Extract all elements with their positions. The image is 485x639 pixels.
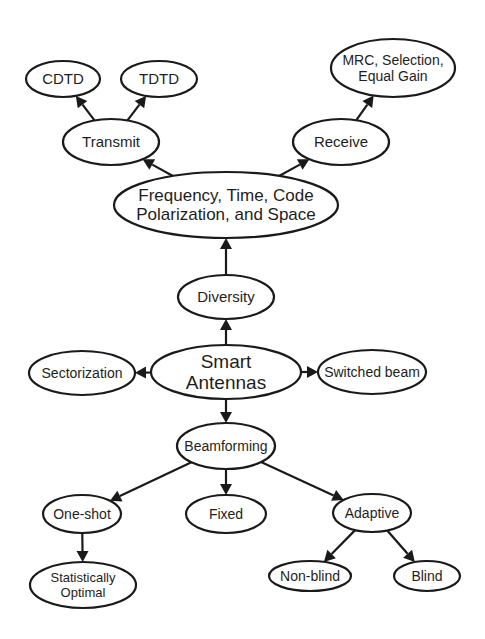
- node-mrc: MRC, Selection,Equal Gain: [331, 39, 455, 97]
- arrowhead-icon: [362, 96, 373, 108]
- node-label: Non-blind: [280, 568, 340, 584]
- node-label: MRC, Selection,: [342, 52, 443, 68]
- nodes-layer: CDTDTDTDTransmitMRC, Selection,Equal Gai…: [26, 39, 460, 608]
- smart-antennas-diagram: CDTDTDTDTransmitMRC, Selection,Equal Gai…: [0, 0, 485, 639]
- node-label: Antennas: [186, 372, 266, 393]
- node-label: Equal Gain: [358, 68, 427, 84]
- node-label: Switched beam: [324, 364, 420, 380]
- node-label: Beamforming: [184, 438, 267, 454]
- arrowhead-icon: [220, 412, 232, 423]
- edge-line: [279, 165, 300, 176]
- edge-line: [83, 105, 95, 121]
- edge-line: [261, 462, 334, 495]
- arrowhead-icon: [307, 366, 318, 378]
- edge-smart-to-beamforming: [220, 399, 232, 423]
- node-smart: SmartAntennas: [151, 345, 301, 399]
- edge-beamforming-to-adaptive: [261, 462, 344, 501]
- edge-line: [152, 165, 173, 176]
- node-label: Optimal: [61, 585, 106, 600]
- node-label: Smart: [201, 351, 252, 372]
- node-label: Transmit: [82, 133, 141, 150]
- node-label: Sectorization: [42, 365, 123, 381]
- edge-receive-to-mrc: [356, 96, 373, 121]
- node-blind: Blind: [394, 561, 460, 591]
- node-label: TDTD: [139, 70, 179, 87]
- edge-line: [127, 105, 139, 121]
- node-transmit: Transmit: [63, 119, 159, 165]
- node-label: Blind: [411, 568, 442, 584]
- node-label: Diversity: [197, 288, 255, 305]
- edge-smart-to-sectorization: [135, 367, 151, 379]
- arrowhead-icon: [135, 96, 146, 108]
- edge-freq-to-transmit: [143, 159, 173, 176]
- node-label: Polarization, and Space: [136, 205, 316, 224]
- edge-smart-to-switched: [301, 366, 318, 378]
- node-adaptive: Adaptive: [333, 494, 411, 532]
- node-fixed: Fixed: [186, 495, 266, 533]
- edge-line: [387, 530, 407, 553]
- node-freq: Frequency, Time, CodePolarization, and S…: [114, 172, 338, 238]
- edge-transmit-to-cdtd: [76, 96, 95, 121]
- edge-oneshot-to-statistically: [77, 533, 89, 562]
- edge-adaptive-to-blind: [387, 530, 415, 562]
- node-label: Fixed: [209, 506, 243, 522]
- node-tdtd: TDTD: [121, 61, 197, 97]
- node-label: CDTD: [42, 70, 84, 87]
- node-receive: Receive: [293, 119, 389, 165]
- node-label: Statistically: [50, 570, 116, 585]
- edge-smart-to-diversity: [220, 319, 232, 345]
- node-diversity: Diversity: [178, 275, 274, 319]
- node-nonblind: Non-blind: [269, 561, 351, 591]
- edge-adaptive-to-nonblind: [324, 530, 355, 562]
- arrowhead-icon: [220, 319, 232, 330]
- node-statistically: StatisticallyOptimal: [30, 562, 136, 608]
- arrowhead-icon: [220, 484, 232, 495]
- edge-diversity-to-freq: [220, 238, 232, 275]
- node-label: Frequency, Time, Code: [138, 186, 313, 205]
- node-beamforming: Beamforming: [177, 423, 275, 469]
- node-label: Receive: [314, 133, 368, 150]
- node-sectorization: Sectorization: [29, 351, 135, 395]
- edge-beamforming-to-oneshot: [110, 462, 191, 501]
- edge-beamforming-to-fixed: [220, 469, 232, 495]
- node-switched: Switched beam: [318, 350, 426, 394]
- node-label: One-shot: [53, 506, 111, 522]
- edge-line: [120, 462, 192, 496]
- arrowhead-icon: [220, 238, 232, 249]
- edge-freq-to-receive: [279, 159, 309, 176]
- arrowhead-icon: [135, 367, 146, 379]
- edges-layer: [76, 96, 415, 563]
- node-label: Adaptive: [345, 505, 400, 521]
- arrowhead-icon: [76, 96, 87, 108]
- edge-line: [356, 105, 367, 121]
- arrowhead-icon: [77, 551, 89, 562]
- node-oneshot: One-shot: [43, 495, 121, 533]
- edge-transmit-to-tdtd: [127, 96, 146, 120]
- edge-line: [332, 530, 356, 554]
- node-cdtd: CDTD: [26, 61, 100, 97]
